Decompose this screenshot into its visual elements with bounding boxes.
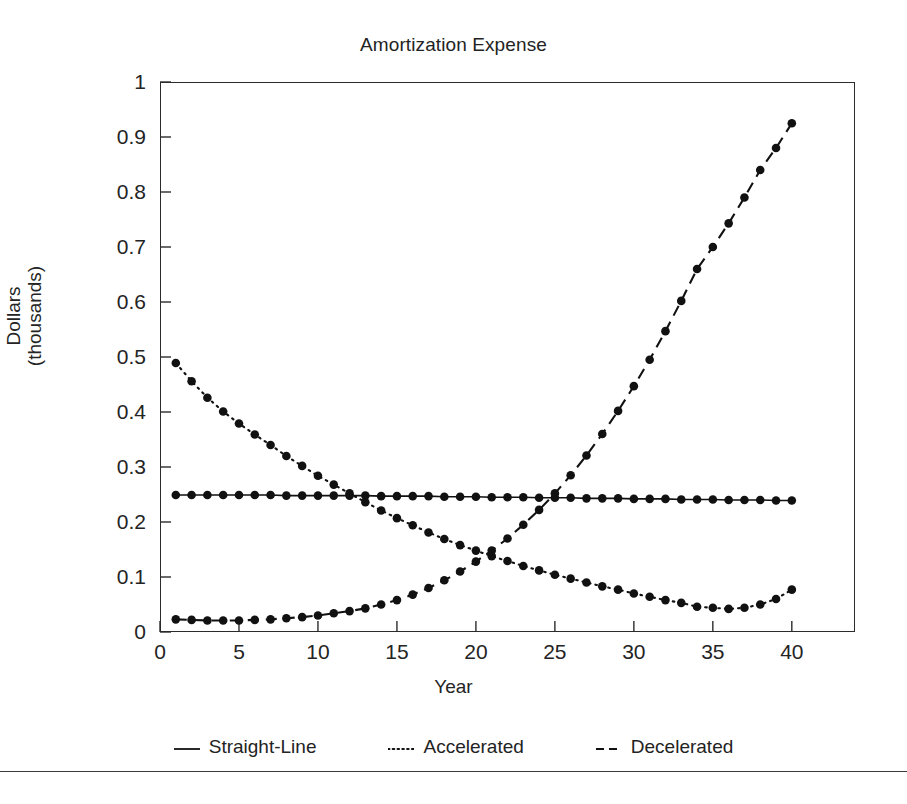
data-point [709, 243, 718, 252]
y-tick-label: 0.3 [0, 455, 146, 479]
chart-legend: Straight-LineAcceleratedDecelerated [0, 736, 907, 758]
data-point [756, 600, 765, 609]
dotted-line-key [388, 741, 414, 753]
data-point [788, 119, 797, 128]
data-point [598, 494, 607, 503]
series-accelerated [172, 359, 797, 613]
data-point [456, 541, 465, 550]
series-decelerated [172, 119, 797, 625]
data-point [298, 462, 307, 471]
data-point [756, 166, 765, 175]
data-point [614, 585, 623, 594]
data-point [740, 496, 749, 505]
data-point [566, 471, 575, 480]
x-tick-label: 0 [154, 640, 166, 664]
legend-label: Straight-Line [209, 736, 317, 758]
data-point [503, 493, 512, 502]
data-point [677, 599, 686, 608]
data-point [408, 492, 417, 501]
data-point [582, 494, 591, 503]
data-point [219, 616, 228, 625]
legend-item[interactable]: Decelerated [596, 736, 733, 758]
data-point [250, 491, 259, 500]
x-tick-label: 15 [385, 640, 408, 664]
data-point [172, 491, 181, 500]
data-point [440, 492, 449, 501]
data-point [551, 489, 560, 498]
data-point [519, 493, 528, 502]
series-line [176, 363, 792, 609]
y-tick-label: 0.7 [0, 235, 146, 259]
data-point [472, 546, 481, 555]
data-point [314, 611, 323, 620]
data-point [472, 492, 481, 501]
data-point [440, 576, 449, 585]
data-point [724, 496, 733, 505]
x-tick-label: 40 [780, 640, 803, 664]
x-tick-label: 25 [543, 640, 566, 664]
data-point [187, 616, 196, 625]
legend-label: Accelerated [423, 736, 523, 758]
data-point [345, 607, 354, 616]
data-point [630, 495, 639, 504]
data-point [282, 491, 291, 500]
data-point [487, 493, 496, 502]
data-point [282, 452, 291, 461]
data-point [519, 520, 528, 529]
data-point [235, 616, 244, 625]
y-tick-label: 0.8 [0, 180, 146, 204]
data-point [630, 589, 639, 598]
legend-label: Decelerated [631, 736, 733, 758]
data-point [645, 495, 654, 504]
data-point [172, 359, 181, 368]
data-point [661, 495, 670, 504]
data-point [614, 494, 623, 503]
legend-item[interactable]: Accelerated [388, 736, 523, 758]
x-tick-label: 10 [306, 640, 329, 664]
data-point [408, 521, 417, 530]
data-point [203, 393, 212, 402]
data-point [393, 596, 402, 605]
data-point [598, 582, 607, 591]
data-point [772, 496, 781, 505]
data-point [503, 557, 512, 566]
data-point [377, 506, 386, 515]
data-point [551, 571, 560, 580]
data-point [424, 584, 433, 593]
y-axis-title-line2: (thousands) [24, 266, 45, 366]
data-point [235, 491, 244, 500]
data-point [566, 574, 575, 583]
data-point [566, 494, 575, 503]
data-point [582, 451, 591, 460]
series-straight-line [172, 491, 797, 505]
data-point [172, 615, 181, 624]
data-point [329, 491, 338, 500]
data-point [440, 535, 449, 544]
data-point [314, 491, 323, 500]
data-point [519, 562, 528, 571]
data-point [298, 613, 307, 622]
data-point [693, 602, 702, 611]
data-point [345, 489, 354, 498]
data-point [630, 382, 639, 391]
data-point [661, 327, 670, 336]
data-point [661, 596, 670, 605]
data-point [282, 614, 291, 623]
data-point [487, 546, 496, 555]
data-point [724, 605, 733, 614]
data-point [314, 472, 323, 481]
legend-item[interactable]: Straight-Line [174, 736, 317, 758]
data-point [408, 590, 417, 599]
data-point [266, 615, 275, 624]
x-tick-label: 35 [701, 640, 724, 664]
data-point [456, 492, 465, 501]
data-point [203, 616, 212, 625]
series-layer [172, 119, 797, 625]
data-point [598, 430, 607, 439]
data-point [266, 491, 275, 500]
data-point [614, 407, 623, 416]
data-point [772, 144, 781, 153]
data-point [709, 604, 718, 613]
data-point [756, 496, 765, 505]
data-point [788, 585, 797, 594]
